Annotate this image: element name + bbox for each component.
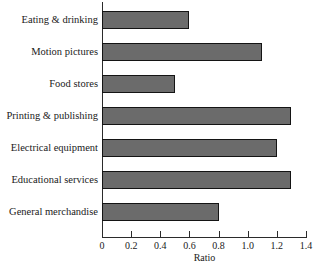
bar bbox=[102, 11, 189, 29]
category-label: Eating & drinking bbox=[0, 14, 98, 26]
x-tick-label: 1.4 bbox=[300, 240, 313, 251]
bar bbox=[102, 43, 262, 61]
bar bbox=[102, 203, 219, 221]
category-label: General merchandise bbox=[0, 206, 98, 218]
x-tick-mark bbox=[248, 231, 249, 237]
x-tick-label: 0.2 bbox=[125, 240, 138, 251]
category-label: Educational services bbox=[0, 174, 98, 186]
x-tick-mark bbox=[160, 231, 161, 237]
x-axis-line bbox=[102, 237, 307, 238]
x-tick-label: 1.2 bbox=[271, 240, 284, 251]
x-tick-mark bbox=[219, 231, 220, 237]
x-tick-label: 0.8 bbox=[212, 240, 225, 251]
x-axis-title: Ratio bbox=[102, 252, 307, 263]
x-tick-label: 0.6 bbox=[183, 240, 196, 251]
bar bbox=[102, 139, 277, 157]
x-tick-label: 0.4 bbox=[154, 240, 167, 251]
bar bbox=[102, 171, 291, 189]
bar bbox=[102, 107, 291, 125]
category-label: Food stores bbox=[0, 78, 98, 90]
category-label: Motion pictures bbox=[0, 46, 98, 58]
x-tick-label: 0 bbox=[100, 240, 105, 251]
category-label: Printing & publishing bbox=[0, 110, 98, 122]
x-tick-mark bbox=[277, 231, 278, 237]
x-tick-mark bbox=[131, 231, 132, 237]
x-tick-mark bbox=[189, 231, 190, 237]
bar-chart: Eating & drinkingMotion picturesFood sto… bbox=[0, 0, 321, 266]
x-tick-mark bbox=[102, 231, 103, 237]
x-tick-label: 1.0 bbox=[241, 240, 254, 251]
bar bbox=[102, 75, 175, 93]
x-tick-mark bbox=[306, 231, 307, 237]
category-label: Electrical equipment bbox=[0, 142, 98, 154]
